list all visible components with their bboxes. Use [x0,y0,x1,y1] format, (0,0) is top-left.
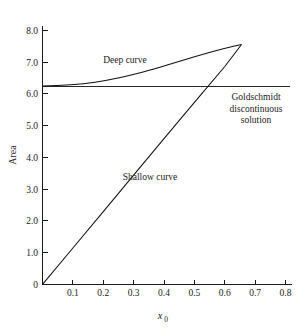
deep-curve-path [43,45,242,87]
goldschmidt-label-line-1: Goldschmidt [231,92,280,102]
x-tick-marks [73,280,286,285]
y-tick-marks [43,31,48,253]
y-tick-label-5: 5.0 [26,121,38,131]
goldschmidt-label-group: Goldschmidt discontinuous solution [230,92,283,125]
y-tick-label-1: 1.0 [26,248,38,258]
x-axis-title-base: x [157,310,163,321]
x-tick-label-0p2: 0.2 [97,288,109,298]
x-tick-labels: 0.1 0.2 0.3 0.4 0.5 0.6 0.7 0.8 [67,288,292,298]
y-tick-labels: 8.0 7.0 6.0 5.0 4.0 3.0 2.0 1.0 0 [26,26,38,290]
y-tick-label-7: 7.0 [26,58,38,68]
x-axis-title: x 0 [157,310,168,324]
x-tick-label-0p6: 0.6 [219,288,231,298]
x-tick-label-0p7: 0.7 [249,288,261,298]
x-tick-label-0p3: 0.3 [128,288,140,298]
y-tick-label-0: 0 [33,280,38,290]
goldschmidt-label-line-3: solution [241,115,272,125]
y-tick-label-4: 4.0 [26,153,38,163]
x-tick-label-0p5: 0.5 [188,288,200,298]
figure-container: 8.0 7.0 6.0 5.0 4.0 3.0 2.0 1.0 0 0.1 0.… [0,0,306,332]
x-tick-label-0p8: 0.8 [280,288,292,298]
y-tick-label-2: 2.0 [26,216,38,226]
shallow-curve-path [43,45,242,285]
y-tick-label-3: 3.0 [26,185,38,195]
shallow-curve-label: Shallow curve [123,172,178,182]
area-vs-x0-chart: 8.0 7.0 6.0 5.0 4.0 3.0 2.0 1.0 0 0.1 0.… [0,0,306,332]
x-tick-label-0p1: 0.1 [67,288,79,298]
y-tick-label-6: 6.0 [26,89,38,99]
x-tick-label-0p4: 0.4 [158,288,170,298]
goldschmidt-label-line-2: discontinuous [230,104,283,114]
x-axis-title-subscript: 0 [164,315,168,324]
deep-curve-label: Deep curve [103,55,147,65]
y-axis-title: Area [7,145,18,165]
y-tick-label-8: 8.0 [26,26,38,36]
